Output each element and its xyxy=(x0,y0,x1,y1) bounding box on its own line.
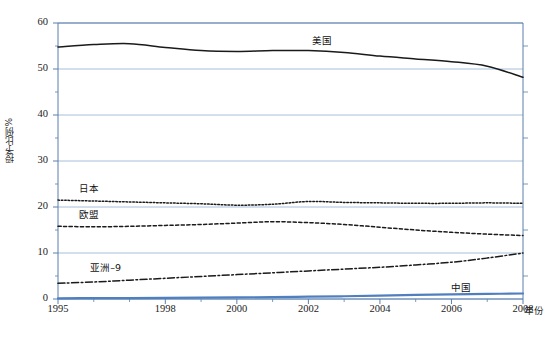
chart-figure: 授予比例% 0102030405060 19951998200020022004… xyxy=(0,0,556,339)
x-tick-label-1995: 1995 xyxy=(38,303,78,314)
series-line-1 xyxy=(58,200,523,205)
y-tick-label-10: 10 xyxy=(22,246,48,257)
series-label-1: 日本 xyxy=(79,181,99,195)
series-label-0: 美国 xyxy=(312,33,332,47)
series-label-2: 欧盟 xyxy=(79,207,99,221)
y-tick-label-20: 20 xyxy=(22,200,48,211)
x-tick-label-2006: 2006 xyxy=(431,303,471,314)
x-tick-label-1998: 1998 xyxy=(145,303,185,314)
y-tick-label-40: 40 xyxy=(22,108,48,119)
x-tick-label-2000: 2000 xyxy=(217,303,257,314)
series-label-3: 亚洲–9 xyxy=(90,260,121,274)
y-tick-label-30: 30 xyxy=(22,154,48,165)
chart-plot-area xyxy=(0,0,556,339)
series-line-0 xyxy=(58,44,523,78)
series-line-2 xyxy=(58,222,523,236)
series-lines-group xyxy=(58,44,523,299)
series-label-4: 中国 xyxy=(451,280,471,294)
x-axis-title: 年份 xyxy=(524,303,544,317)
x-tick-label-2002: 2002 xyxy=(288,303,328,314)
gridlines-group xyxy=(58,23,523,299)
y-tick-label-60: 60 xyxy=(22,16,48,27)
y-tick-label-0: 0 xyxy=(22,292,48,303)
x-tick-label-2004: 2004 xyxy=(360,303,400,314)
y-tick-label-50: 50 xyxy=(22,62,48,73)
series-line-4 xyxy=(58,293,523,298)
